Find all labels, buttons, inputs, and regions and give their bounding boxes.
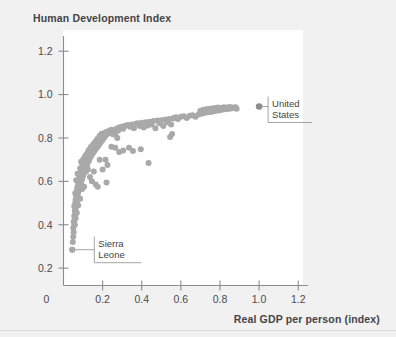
x-axis-title: Real GDP per person (index) (0, 313, 380, 325)
data-point (169, 131, 175, 137)
data-point (152, 125, 158, 131)
data-point (104, 179, 110, 185)
y-tick-label: 0.8 (38, 132, 53, 144)
data-point (85, 166, 91, 172)
data-point (120, 148, 126, 154)
y-tick-label: 0.2 (38, 262, 53, 274)
x-tick-label: 0.4 (134, 293, 149, 305)
data-point (120, 126, 126, 132)
scatter-plot: 0.20.40.60.81.01.2 00.20.40.60.81.01.2 U… (0, 0, 396, 337)
data-point (81, 184, 87, 190)
highlighted-data-point (256, 103, 263, 110)
data-point (91, 169, 97, 175)
annotation-label: United (272, 98, 299, 109)
data-point (168, 122, 174, 128)
data-point (75, 202, 81, 208)
x-tick-label: 0 (44, 293, 50, 305)
data-point (234, 106, 240, 112)
data-point (105, 162, 111, 168)
annotation-label: Sierra (98, 238, 124, 249)
footer-divider (0, 330, 396, 331)
data-point (103, 157, 109, 163)
data-point (138, 146, 144, 152)
data-point (130, 148, 136, 154)
data-point (114, 135, 120, 141)
data-point (109, 131, 115, 137)
figure-panel: Human Development Index 0.20.40.60.81.01… (0, 0, 396, 337)
annotation-label: Leone (98, 249, 124, 260)
y-tick-label: 1.2 (38, 45, 53, 57)
data-point (70, 239, 76, 245)
y-tick-label: 1.0 (38, 88, 53, 100)
y-tick-label: 0.4 (38, 219, 53, 231)
highlighted-data-point (69, 247, 75, 253)
data-point (95, 184, 101, 190)
y-tick-label: 0.6 (38, 175, 53, 187)
x-tick-label: 0.8 (213, 293, 228, 305)
annotation-label: States (272, 109, 299, 120)
data-point (73, 215, 79, 221)
data-point (74, 210, 80, 216)
data-point (97, 157, 103, 163)
data-point (77, 196, 83, 202)
data-point (146, 160, 152, 166)
data-point (100, 166, 106, 172)
x-tick-label: 1.2 (291, 293, 306, 305)
x-tick-label: 0.2 (95, 293, 110, 305)
x-tick-label: 1.0 (252, 293, 267, 305)
x-tick-label: 0.6 (174, 293, 189, 305)
data-point (72, 222, 78, 228)
